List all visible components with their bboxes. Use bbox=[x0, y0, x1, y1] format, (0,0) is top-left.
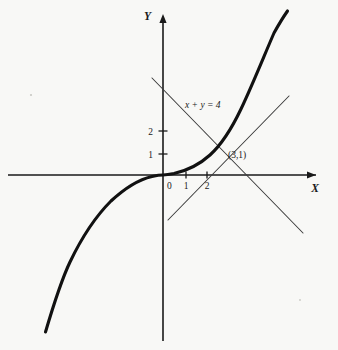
intersection-point-label: (3,1) bbox=[228, 150, 246, 161]
y-tick-label-1: 1 bbox=[148, 150, 153, 160]
x-tick-label-2: 2 bbox=[205, 181, 210, 191]
cubic-tangent-line-figure: Y X 0 1 2 1 2 x + y = 4 (3,1) bbox=[0, 0, 338, 350]
x-axis-label: X bbox=[310, 182, 319, 194]
scan-speck bbox=[30, 94, 32, 96]
y-axis-label: Y bbox=[144, 10, 152, 22]
equation-label: x + y = 4 bbox=[184, 100, 221, 110]
x-tick-label-1: 1 bbox=[184, 181, 189, 191]
origin-label: 0 bbox=[167, 181, 172, 191]
scan-speck bbox=[299, 299, 301, 301]
y-tick-label-2: 2 bbox=[148, 127, 153, 137]
chart-canvas: Y X 0 1 2 1 2 x + y = 4 (3,1) bbox=[0, 0, 338, 350]
